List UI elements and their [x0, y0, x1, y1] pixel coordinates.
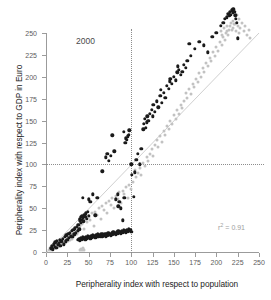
data-point	[183, 100, 186, 103]
data-point	[131, 180, 134, 183]
data-point	[97, 207, 100, 210]
data-point	[109, 203, 112, 206]
data-point	[210, 60, 213, 63]
x-tick-label: 50	[85, 259, 93, 266]
x-tick-label: 250	[253, 259, 265, 266]
y-tick-label: 225	[25, 51, 37, 58]
data-point	[196, 81, 199, 84]
data-point	[130, 187, 133, 190]
x-tick-mark	[46, 253, 47, 257]
x-tick-label: 200	[211, 259, 223, 266]
data-point	[125, 186, 128, 189]
data-point	[147, 159, 150, 162]
y-tick-label: 200	[25, 73, 37, 80]
data-point	[138, 166, 141, 169]
x-tick-mark	[174, 253, 175, 257]
data-point	[160, 140, 163, 143]
data-point	[244, 25, 247, 28]
data-point	[143, 165, 146, 168]
x-tick-mark	[238, 253, 239, 257]
data-point	[184, 91, 187, 94]
data-point	[223, 26, 226, 29]
x-tick-mark	[259, 253, 260, 257]
data-point	[135, 175, 138, 178]
data-point	[83, 228, 86, 231]
data-point	[152, 154, 155, 157]
x-tick-mark	[110, 253, 111, 257]
data-point	[236, 25, 239, 28]
data-point	[174, 117, 177, 120]
data-point	[217, 49, 220, 52]
data-point	[220, 44, 223, 47]
data-point	[83, 249, 86, 252]
x-tick-mark	[67, 253, 68, 257]
x-tick-label: 125	[147, 259, 159, 266]
data-point	[106, 212, 109, 215]
data-point	[242, 30, 245, 33]
data-point	[102, 208, 105, 211]
data-point	[181, 107, 184, 110]
data-point	[206, 65, 209, 68]
data-point	[186, 96, 189, 99]
data-point	[228, 28, 231, 31]
data-point	[247, 28, 250, 31]
data-point	[238, 32, 241, 35]
y-axis-title: Peripherality index with respect to GDP …	[14, 0, 28, 300]
data-point	[89, 219, 92, 222]
data-point	[92, 224, 95, 227]
data-point	[223, 39, 226, 42]
data-point	[222, 21, 225, 24]
x-tick-label: 150	[168, 259, 180, 266]
data-point	[193, 86, 196, 89]
x-tick-label: 225	[232, 259, 244, 266]
x-tick-label: 75	[106, 259, 114, 266]
y-tick-label: 250	[25, 30, 37, 37]
data-point	[104, 201, 107, 204]
data-point	[126, 196, 129, 199]
data-point	[164, 133, 167, 136]
data-point	[231, 26, 234, 29]
data-point	[200, 75, 203, 78]
data-point	[113, 207, 116, 210]
scatter-plot-figure: Peripherality index with respect to GDP …	[0, 0, 271, 300]
x-tick-mark	[195, 253, 196, 257]
data-point	[239, 26, 242, 29]
data-point	[249, 37, 252, 40]
data-point	[177, 112, 180, 115]
r2-value: = 0.91	[223, 224, 245, 231]
y-tick-label: 75	[29, 183, 37, 190]
x-tick-label: 0	[44, 259, 48, 266]
y-tick-label: 150	[25, 117, 37, 124]
y-tick-label: 175	[25, 95, 37, 102]
data-point	[246, 33, 249, 36]
data-point	[227, 33, 230, 36]
x-tick-mark	[131, 253, 132, 257]
data-point	[213, 54, 216, 57]
data-point	[99, 217, 102, 220]
x-tick-label: 25	[63, 259, 71, 266]
x-tick-label: 175	[189, 259, 201, 266]
r-squared-annotation: r2 = 0.91	[218, 222, 245, 231]
data-point	[240, 21, 243, 24]
data-point	[203, 70, 206, 73]
data-point	[85, 221, 88, 224]
y-tick-label: 0	[33, 249, 37, 256]
data-point	[140, 173, 143, 176]
x-tick-mark	[216, 253, 217, 257]
year-annotation: 2000	[76, 36, 95, 46]
data-point	[167, 128, 170, 131]
data-point	[157, 145, 160, 148]
y-tick-label: 100	[25, 161, 37, 168]
y-tick-label: 25	[29, 227, 37, 234]
y-tick-label: 50	[29, 205, 37, 212]
x-axis-title: Peripherality index with respect to popu…	[46, 279, 268, 289]
data-point	[159, 135, 162, 138]
data-point	[188, 88, 191, 91]
x-tick-label: 100	[125, 259, 137, 266]
data-point	[224, 32, 227, 35]
data-point	[189, 93, 192, 96]
x-tick-mark	[89, 253, 90, 257]
data-point	[221, 33, 224, 36]
x-tick-mark	[153, 253, 154, 257]
y-tick-label: 125	[25, 139, 37, 146]
